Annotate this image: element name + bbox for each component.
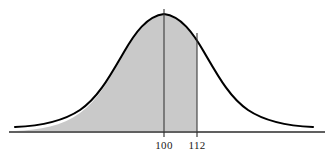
shaded-area-under-curve	[15, 14, 197, 131]
bell-curve-figure: 100 112	[0, 0, 331, 163]
tick-label-value: 112	[189, 139, 206, 151]
tick-label-mean: 100	[155, 139, 172, 151]
